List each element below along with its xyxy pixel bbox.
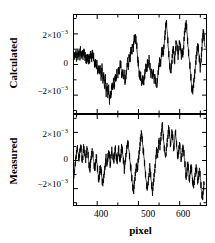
x-tick-label-600: 600 [168, 209, 198, 219]
x-tick-label-400: 400 [86, 209, 116, 219]
y-tick-label-calculated-pos2e-3: 2×10−3 [8, 31, 68, 40]
y-tick-label-measured-zero: 0 [8, 155, 68, 164]
y-tick-label-calculated-zero: 0 [8, 59, 68, 68]
y-tick-label-calculated-neg2e-3: −2×10−3 [8, 87, 68, 96]
x-axis-label: pixel [73, 224, 208, 236]
x-tick-label-500: 500 [133, 209, 163, 219]
y-tick-label-measured-neg2e-3: −2×10−3 [8, 180, 68, 189]
figure-root: Calculated Measured 2×10−3 0 −2×10−3 2×1… [0, 0, 215, 243]
y-tick-label-measured-pos2e-3: 2×10−3 [8, 130, 68, 139]
